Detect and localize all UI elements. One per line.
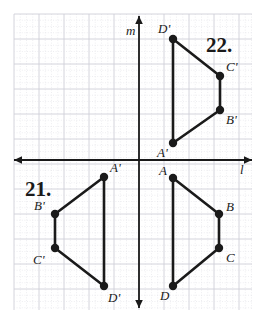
polygon-21-image-label-A-prime: A' xyxy=(109,160,121,175)
polygon-22-image-vertex-A-prime xyxy=(169,139,177,147)
polygon-21-image-label-C-prime: C' xyxy=(33,252,45,267)
polygon-21-image-vertex-D-prime xyxy=(100,282,108,290)
grid-layer xyxy=(14,14,252,310)
polygons-layer xyxy=(51,35,224,290)
polygon-21-image-outline xyxy=(55,177,104,286)
polygon-21-image-vertex-A-prime xyxy=(100,173,108,181)
polygon-22-image-label-B-prime: B' xyxy=(226,112,237,127)
polygon-21-image xyxy=(51,173,108,290)
polygon-21-preimage-outline xyxy=(173,178,219,286)
problem-number-22: 22. xyxy=(206,33,232,57)
polygon-21-image-vertex-C-prime xyxy=(51,244,59,252)
polygon-22-image-label-D-prime: D' xyxy=(157,21,170,36)
polygon-22-image-vertex-C-prime xyxy=(216,72,224,80)
polygon-22-image-label-A-prime: A' xyxy=(156,145,168,160)
polygon-21-preimage-vertex-D xyxy=(169,282,177,290)
polygon-22-image-vertex-D-prime xyxy=(169,35,177,43)
polygon-21-preimage-vertex-A xyxy=(169,174,177,182)
polygon-21-preimage-label-B: B xyxy=(226,199,234,214)
polygon-22-image-label-C-prime: C' xyxy=(226,59,238,74)
horizontal-axis-arrow-left xyxy=(14,156,22,164)
geometry-figure-svg: lmA'B'C'D'ABCDA'B'C'D'22.21. xyxy=(0,0,260,315)
polygon-22-image-vertex-B-prime xyxy=(216,106,224,114)
horizontal-axis-arrow-right xyxy=(244,156,252,164)
geometry-figure-container: lmA'B'C'D'ABCDA'B'C'D'22.21. xyxy=(0,0,260,315)
polygon-21-preimage-label-A: A xyxy=(158,163,167,178)
polygon-21-preimage-label-C: C xyxy=(226,250,235,265)
polygon-21-preimage-label-D: D xyxy=(159,288,170,303)
problem-number-21: 21. xyxy=(25,177,51,201)
polygon-21-image-vertex-B-prime xyxy=(51,210,59,218)
vertical-axis-arrow-down xyxy=(135,300,143,308)
polygon-21-preimage-vertex-B xyxy=(215,210,223,218)
vertical-axis-label: m xyxy=(126,23,135,38)
horizontal-axis-label: l xyxy=(240,162,244,177)
polygon-21-preimage-vertex-C xyxy=(215,244,223,252)
polygon-21-preimage xyxy=(169,174,223,290)
polygon-21-image-label-D-prime: D' xyxy=(107,290,120,305)
